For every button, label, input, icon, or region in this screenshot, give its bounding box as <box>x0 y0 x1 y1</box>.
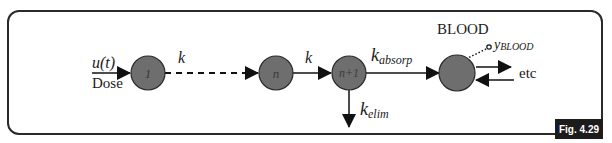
elimination-rate-base: k <box>360 99 368 119</box>
compartment-node-blood <box>439 55 475 91</box>
figure-number-badge: Fig. 4.29 <box>555 119 603 139</box>
output-sub: BLOOD <box>500 41 533 52</box>
absorption-rate-base: k <box>371 45 379 65</box>
output-blood-label: yBLOOD <box>494 38 534 52</box>
node-n-label: n <box>259 67 293 80</box>
observation-dotted-line <box>466 49 486 59</box>
node-n-plus-1-label: n+1 <box>332 67 366 79</box>
node-1-label: 1 <box>131 67 165 80</box>
elimination-rate-label: kelim <box>360 100 389 118</box>
blood-compartment-title: BLOOD <box>437 22 489 37</box>
absorption-rate-sub: absorp <box>379 53 412 67</box>
dashed-rate-label: k <box>178 50 185 66</box>
input-signal-label: u(t) <box>92 55 115 71</box>
absorption-rate-label: kabsorp <box>371 46 412 64</box>
n-to-n1-rate-label: k <box>305 50 312 66</box>
input-dose-label: Dose <box>92 76 123 91</box>
elimination-rate-sub: elim <box>368 107 389 121</box>
observation-point-icon <box>487 45 491 49</box>
exchange-etc-label: etc <box>519 66 536 81</box>
